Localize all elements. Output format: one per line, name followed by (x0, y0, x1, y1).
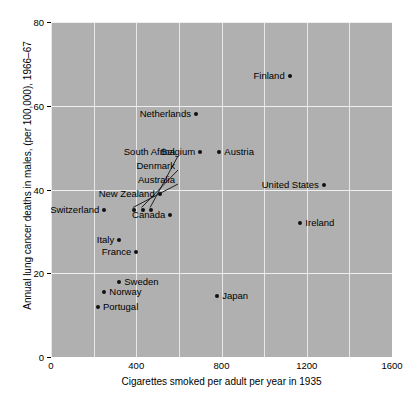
y-tick-mark (47, 106, 51, 107)
data-point (158, 192, 162, 196)
point-label-leader: Australia (138, 175, 175, 185)
data-point (134, 250, 138, 254)
plot-panel: Great BritainFinlandNetherlandsBelgiumAu… (51, 22, 392, 357)
y-tick-mark (47, 273, 51, 274)
y-tick-mark (47, 22, 51, 23)
data-point (96, 305, 100, 309)
data-point (102, 208, 106, 212)
data-point (198, 150, 202, 154)
point-label: France (102, 247, 132, 257)
data-point (288, 74, 292, 78)
horizontal-gridline (51, 106, 392, 107)
point-label: Canada (132, 210, 165, 220)
y-tick-mark (47, 190, 51, 191)
point-label: Italy (97, 235, 114, 245)
point-label: Norway (109, 287, 141, 297)
point-label: Japan (222, 291, 248, 301)
data-point (117, 238, 121, 242)
data-point (102, 290, 106, 294)
point-label: Portugal (103, 302, 138, 312)
point-label: Netherlands (140, 109, 191, 119)
y-tick-mark (47, 357, 51, 358)
y-tick-label: 0 (22, 352, 44, 363)
point-label: New Zealand (99, 189, 155, 199)
point-label: Finland (254, 71, 285, 81)
y-axis-title: Annual lung cancer deaths in males, (per… (22, 16, 33, 336)
x-axis-title: Cigarettes smoked per adult per year in … (51, 376, 392, 387)
x-tick-label: 0 (48, 360, 53, 371)
point-label: Great Britain (327, 22, 380, 23)
point-label: Austria (224, 147, 254, 157)
horizontal-gridline (51, 273, 392, 274)
point-label-leader: Denmark (136, 161, 175, 171)
data-point (217, 150, 221, 154)
x-tick-label: 1200 (296, 360, 317, 371)
point-label: Ireland (305, 218, 334, 228)
data-point (298, 221, 302, 225)
x-tick-label: 1600 (381, 360, 402, 371)
x-tick-label: 800 (214, 360, 230, 371)
data-point (322, 183, 326, 187)
data-point (168, 213, 172, 217)
point-label: United States (262, 180, 319, 190)
scatter-plot-figure: Great BritainFinlandNetherlandsBelgiumAu… (0, 0, 412, 401)
data-point (194, 112, 198, 116)
x-tick-label: 400 (128, 360, 144, 371)
point-label: Switzerland (51, 205, 99, 215)
data-point (117, 280, 121, 284)
point-label-leader: South Africa (124, 147, 175, 157)
data-point (215, 294, 219, 298)
